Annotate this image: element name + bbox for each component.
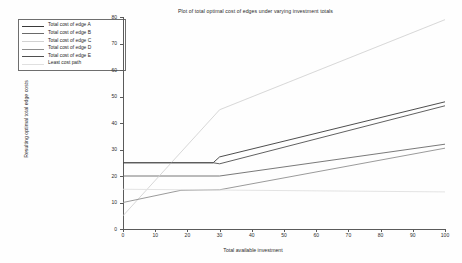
chart-title: Plot of total optimal cost of edges unde…	[178, 8, 458, 14]
y-axis-ticks: 01020304050607080	[103, 17, 123, 229]
series-lines	[123, 17, 445, 229]
x-axis-tick-label: 70	[338, 233, 358, 238]
x-axis-tick-label: 30	[210, 233, 230, 238]
x-axis-tick-label: 60	[306, 233, 326, 238]
series-line	[123, 144, 445, 176]
legend-item-label: Total cost of edge C	[48, 39, 91, 44]
y-axis-tick-label: 10	[97, 200, 117, 205]
series-line	[123, 148, 445, 202]
chart-figure: Plot of total optimal cost of edges unde…	[0, 0, 462, 263]
x-axis-tick-label: 80	[371, 233, 391, 238]
y-axis-tick-label: 50	[97, 94, 117, 99]
plot-area	[123, 17, 445, 229]
series-line	[123, 20, 445, 216]
y-axis-tick-label: 60	[97, 68, 117, 73]
x-axis-tick-label: 100	[435, 233, 455, 238]
legend-item-label: Least cost path	[48, 61, 81, 66]
x-axis-ticks: 0102030405060708090100	[123, 229, 445, 243]
y-axis-tick-label: 40	[97, 121, 117, 126]
legend-line-swatch	[21, 23, 45, 29]
x-axis-tick-label: 20	[177, 233, 197, 238]
series-line	[123, 106, 445, 164]
y-axis-label: Resulting optimal total edge costs	[23, 39, 29, 199]
y-axis-tick-label: 80	[97, 15, 117, 20]
x-axis-label-text: Total available investment	[223, 247, 282, 253]
legend-item-label: Total cost of edge B	[48, 31, 91, 36]
legend-item-label: Total cost of edge E	[48, 54, 91, 59]
x-axis-label: Total available investment	[0, 247, 462, 253]
x-axis-tick-label: 90	[403, 233, 423, 238]
y-axis-tick-label: 70	[97, 41, 117, 46]
x-axis-tick-label: 50	[274, 233, 294, 238]
x-axis-tick-label: 10	[145, 233, 165, 238]
x-axis-tick-label: 0	[113, 233, 133, 238]
legend-item-label: Total cost of edge D	[48, 46, 91, 51]
series-line	[123, 102, 445, 163]
legend-item-label: Total cost of edge A	[48, 23, 91, 28]
legend-line-swatch	[21, 30, 45, 36]
y-axis-tick-label: 20	[97, 174, 117, 179]
series-line	[123, 189, 445, 192]
y-axis-tick-label: 30	[97, 147, 117, 152]
y-axis-tick-label: 0	[97, 227, 117, 232]
x-axis-tick-label: 40	[242, 233, 262, 238]
